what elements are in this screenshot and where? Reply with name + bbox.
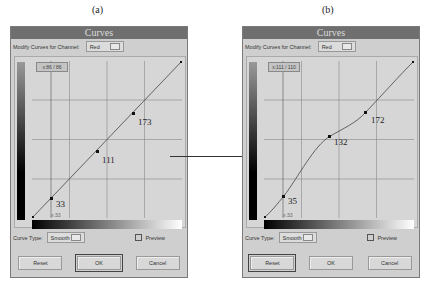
input-gradient bbox=[32, 220, 182, 229]
preview-label: Preview bbox=[145, 235, 165, 241]
curve-panel: 33111173 x:86 / 86 x:33 bbox=[14, 56, 186, 228]
input-gradient bbox=[264, 220, 414, 229]
checkbox-icon bbox=[367, 234, 374, 241]
button-row: Reset OK Cancel bbox=[243, 256, 419, 270]
x-readout: x:33 bbox=[283, 212, 292, 218]
reset-button[interactable]: Reset bbox=[250, 256, 294, 270]
curve-plot[interactable]: 35132172 bbox=[264, 61, 414, 218]
channel-row: Modify Curves for Channel: Red bbox=[13, 41, 124, 52]
channel-select[interactable]: Red bbox=[86, 41, 124, 52]
coordinate-readout: x:111 / 110 bbox=[268, 62, 300, 72]
svg-text:35: 35 bbox=[288, 196, 298, 206]
dialog-title: Curves bbox=[243, 27, 419, 39]
button-row: Reset OK Cancel bbox=[11, 256, 187, 270]
preview-label: Preview bbox=[377, 235, 397, 241]
channel-label: Modify Curves for Channel: bbox=[245, 44, 312, 50]
cancel-button[interactable]: Cancel bbox=[368, 256, 412, 270]
channel-label: Modify Curves for Channel: bbox=[13, 44, 80, 50]
curves-dialog-a: Curves Modify Curves for Channel: Red 33… bbox=[10, 26, 188, 278]
curve-type-value: Smooth bbox=[283, 235, 302, 241]
curve-panel: 35132172 x:111 / 110 x:33 bbox=[246, 56, 418, 228]
channel-select[interactable]: Red bbox=[318, 41, 356, 52]
curves-dialog-b: Curves Modify Curves for Channel: Red 35… bbox=[242, 26, 420, 278]
preview-checkbox[interactable]: Preview bbox=[135, 234, 165, 241]
svg-text:132: 132 bbox=[334, 137, 348, 147]
x-readout: x:33 bbox=[51, 212, 60, 218]
output-gradient bbox=[249, 62, 257, 220]
svg-text:173: 173 bbox=[138, 117, 152, 127]
channel-value: Red bbox=[90, 44, 100, 50]
curve-type-select[interactable]: Smooth bbox=[279, 232, 317, 243]
svg-text:33: 33 bbox=[56, 199, 66, 209]
reset-button[interactable]: Reset bbox=[18, 256, 62, 270]
curve-type-value: Smooth bbox=[51, 235, 70, 241]
dialog-title: Curves bbox=[11, 27, 187, 39]
curve-type-select[interactable]: Smooth bbox=[47, 232, 85, 243]
channel-value: Red bbox=[322, 44, 332, 50]
dropdown-icon bbox=[342, 43, 352, 50]
svg-text:111: 111 bbox=[102, 155, 115, 165]
curve-plot[interactable]: 33111173 bbox=[32, 61, 182, 218]
curve-type-row: Curve Type: Smooth Preview bbox=[245, 232, 415, 243]
caption-a: (a) bbox=[92, 4, 103, 15]
ok-button[interactable]: OK bbox=[77, 256, 121, 270]
ok-button[interactable]: OK bbox=[309, 256, 353, 270]
channel-row: Modify Curves for Channel: Red bbox=[245, 41, 356, 52]
dropdown-icon bbox=[110, 43, 120, 50]
preview-checkbox[interactable]: Preview bbox=[367, 234, 397, 241]
curve-type-label: Curve Type: bbox=[13, 235, 43, 241]
dropdown-icon bbox=[303, 234, 313, 241]
caption-b: (b) bbox=[322, 4, 334, 15]
output-gradient bbox=[17, 62, 25, 220]
dropdown-icon bbox=[71, 234, 81, 241]
coordinate-readout: x:86 / 86 bbox=[36, 62, 68, 72]
cancel-button[interactable]: Cancel bbox=[136, 256, 180, 270]
curve-type-label: Curve Type: bbox=[245, 235, 275, 241]
checkbox-icon bbox=[135, 234, 142, 241]
svg-text:172: 172 bbox=[371, 115, 385, 125]
curve-type-row: Curve Type: Smooth Preview bbox=[13, 232, 183, 243]
